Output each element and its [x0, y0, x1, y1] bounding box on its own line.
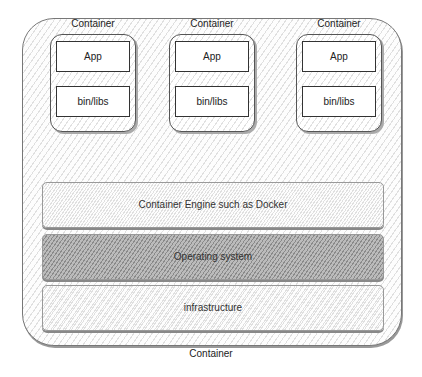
app-box: App: [175, 41, 249, 72]
libs-box: bin/libs: [56, 86, 130, 117]
app-box: App: [302, 41, 376, 72]
libs-box: bin/libs: [175, 86, 249, 117]
container-label: Container: [162, 18, 262, 29]
container-label: Container: [289, 18, 389, 29]
container-1: App bin/libs: [50, 34, 136, 132]
container-engine-layer: Container Engine such as Docker: [42, 182, 384, 228]
container-2: App bin/libs: [169, 34, 255, 132]
app-box: App: [56, 41, 130, 72]
host-container-label: Container: [0, 348, 422, 359]
libs-box: bin/libs: [302, 86, 376, 117]
operating-system-layer: Operating system: [42, 234, 384, 280]
container-label: Container: [43, 18, 143, 29]
container-3: App bin/libs: [296, 34, 382, 132]
infrastructure-layer: infrastructure: [42, 285, 384, 331]
